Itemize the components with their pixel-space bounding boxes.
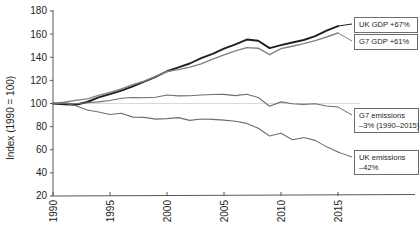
x-axis-line — [53, 195, 415, 197]
y-axis-title: Index (1990 = 100) — [5, 76, 16, 160]
y-tick-label-100: 100 — [30, 98, 47, 109]
annotation-g7-gdp: G7 GDP +61% — [354, 34, 418, 50]
x-tick-label-1995: 1995 — [105, 200, 116, 223]
y-tick-label-80: 80 — [36, 121, 48, 132]
annotation-uk-emissions-line2: –42% — [359, 163, 415, 173]
x-tick-label-2010: 2010 — [276, 200, 287, 223]
annotation-g7-emissions-line2: –3% (1990–2015) — [359, 121, 415, 131]
annotation-uk-gdp: UK GDP +67% — [354, 17, 418, 33]
y-axis-title-group: Index (1990 = 100) — [5, 76, 16, 160]
y-tick-label-120: 120 — [30, 75, 47, 86]
y-tick-label-180: 180 — [30, 5, 47, 16]
y-tick-label-60: 60 — [36, 144, 48, 155]
chart-container: 2040608010012014016018019901995200020052… — [0, 0, 420, 240]
annotation-uk-emissions-line1: UK emissions — [359, 153, 415, 163]
y-tick-label-140: 140 — [30, 52, 47, 63]
y-tick-label-160: 160 — [30, 29, 47, 40]
annotation-uk-emissions: UK emissions –42% — [354, 150, 419, 175]
leader-line-uk-gdp — [338, 24, 352, 26]
x-tick-label-2000: 2000 — [162, 200, 173, 223]
series-group — [53, 26, 338, 152]
leader-line-g7-gdp — [338, 33, 352, 41]
y-tick-label-20: 20 — [36, 190, 48, 201]
x-tick-label-2015: 2015 — [333, 200, 344, 223]
leader-line-group — [338, 24, 352, 157]
x-tick-label-1990: 1990 — [48, 200, 59, 223]
annotation-g7-emissions-line1: G7 emissions — [359, 111, 415, 121]
annotation-g7-emissions: G7 emissions –3% (1990–2015) — [354, 108, 419, 133]
tick-label-group: 2040608010012014016018019901995200020052… — [30, 5, 343, 222]
annotation-uk-gdp-line1: UK GDP +67% — [359, 20, 414, 30]
leader-line-g7-emissions — [338, 107, 352, 115]
series-line-g7-gdp — [53, 33, 338, 104]
series-line-uk-emissions — [53, 103, 338, 152]
y-tick-label-40: 40 — [36, 167, 48, 178]
annotation-g7-gdp-line1: G7 GDP +61% — [359, 37, 414, 47]
leader-line-uk-emissions — [338, 152, 352, 157]
x-tick-label-2005: 2005 — [219, 200, 230, 223]
